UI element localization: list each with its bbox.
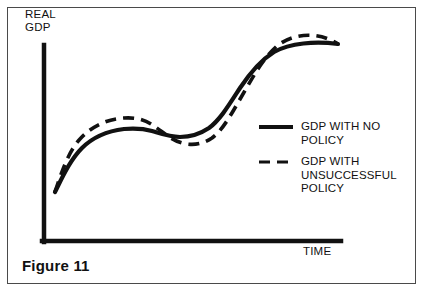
legend-label-gdp-no-policy: GDP WITH NO POLICY: [301, 120, 418, 147]
x-axis-label: TIME: [303, 245, 331, 258]
legend-label-gdp-unsuccessful-policy: GDP WITH UNSUCCESSFUL POLICY: [301, 155, 418, 196]
legend-dashed-line-icon: [258, 155, 294, 169]
figure-container: REAL GDP TIME Figure 11 GDP WITH NO POLI…: [0, 0, 425, 293]
legend-item-gdp-no-policy: GDP WITH NO POLICY: [258, 120, 418, 147]
y-axis-label: REAL GDP: [25, 8, 56, 33]
legend-solid-line-icon: [258, 120, 294, 134]
figure-caption: Figure 11: [22, 257, 90, 274]
legend-item-gdp-unsuccessful-policy: GDP WITH UNSUCCESSFUL POLICY: [258, 155, 418, 196]
legend: GDP WITH NO POLICY GDP WITH UNSUCCESSFUL…: [258, 120, 418, 204]
